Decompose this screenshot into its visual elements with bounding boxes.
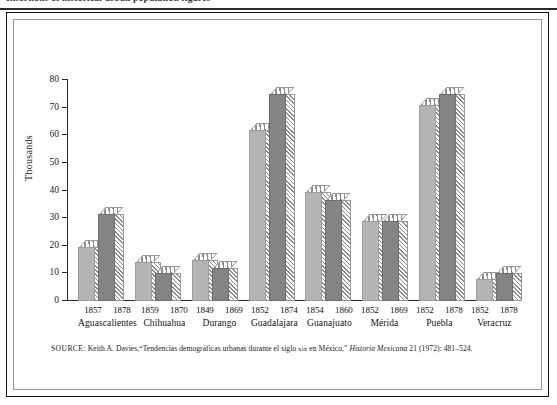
bar-side-face [342,200,351,301]
y-tick-mark [62,190,67,191]
x-tick-year-1852: 1852 [357,305,383,315]
x-tick-year-1878: 1878 [109,305,135,315]
bar-side-face [513,273,522,301]
bar-group-aguascalientes [78,79,115,301]
bar-puebla-1878 [439,94,456,301]
y-tick-label: 80 [50,74,60,84]
group-year-labels: 18521878 [467,305,522,315]
x-tick-city-label: Aguascalientes [78,318,137,328]
bar-slot [382,79,399,301]
bar-group-chihuahua [135,79,172,301]
bar-veracruz-1878 [496,273,513,301]
bar-front-face [439,94,456,301]
bar-group-veracruz [476,79,513,301]
bar-slot [98,79,115,301]
bar-side-face [172,273,181,301]
y-tick-mark [62,272,67,273]
y-tick-label: 0 [54,295,59,305]
x-tick-year-1849: 1849 [192,305,218,315]
group-label-durango: 18491869Durango [192,305,247,328]
bar-slot [78,79,95,301]
x-tick-year-1859: 1859 [137,305,163,315]
bar-side-face [286,94,295,301]
bar-side-face [456,94,465,301]
figure-outer-frame: Thousands 01020304050607080 18571878Agua… [6,12,549,397]
bar-mrida-1852 [362,221,379,301]
group-label-puebla: 18521878Puebla [412,305,467,328]
source-article-open: “Tendencias demográficas urbanas durante… [139,344,298,353]
group-year-labels: 18521874 [247,305,302,315]
x-axis-labels: 18571878Aguascalientes18591870Chihuahua1… [68,305,519,328]
group-label-chihuahua: 18591870Chihuahua [137,305,192,328]
source-note: SOURCE: Keith A. Davies,“Tendencias demo… [51,344,521,354]
bar-front-face [496,273,513,301]
y-tick-mark [62,217,67,218]
x-tick-year-1852: 1852 [247,305,273,315]
bar-slot [135,79,152,301]
bar-aguascalientes-1857 [78,247,95,301]
bar-front-face [305,192,322,301]
bar-slot [192,79,209,301]
x-tick-year-1870: 1870 [166,305,192,315]
top-horizontal-rule [0,8,557,10]
group-year-labels: 18521869 [357,305,412,315]
bar-chihuahua-1870 [155,273,172,301]
x-tick-year-1878: 1878 [496,305,522,315]
bar-slot [496,79,513,301]
x-tick-year-1852: 1852 [412,305,438,315]
bar-guanajuato-1860 [325,200,342,301]
top-caption-text: Insertions of historical urban populatio… [6,0,211,3]
bar-guadalajara-1852 [249,130,266,301]
bar-front-face [249,130,266,301]
source-article-close: en México,” [307,344,349,353]
group-year-labels: 18541860 [302,305,357,315]
group-year-labels: 18591870 [137,305,192,315]
bar-puebla-1852 [419,105,436,301]
bar-slot [439,79,456,301]
y-tick-label: 70 [50,102,60,112]
bar-slot [325,79,342,301]
bar-front-face [362,221,379,301]
bar-side-face [115,214,124,301]
bar-front-face [155,273,172,301]
x-tick-year-1874: 1874 [276,305,302,315]
bar-group-puebla [419,79,456,301]
x-tick-city-label: Chihuahua [137,318,192,328]
bar-front-face [192,260,209,301]
bar-front-face [78,247,95,301]
x-tick-year-1878: 1878 [441,305,467,315]
x-tick-city-label: Mérida [357,318,412,328]
y-tick-mark [62,245,67,246]
bar-side-face [399,221,408,301]
x-tick-city-label: Guanajuato [302,318,357,328]
x-tick-city-label: Durango [192,318,247,328]
bar-chart-plot-area: 01020304050607080 [67,79,519,301]
x-tick-year-1854: 1854 [302,305,328,315]
group-label-veracruz: 18521878Veracruz [467,305,522,328]
group-label-guadalajara: 18521874Guadalajara [247,305,302,328]
y-tick-label: 40 [50,185,60,195]
group-label-mrida: 18521869Mérida [357,305,412,328]
y-tick-mark [62,107,67,108]
y-axis-title: Thousands [23,135,34,181]
y-tick-label: 50 [50,157,60,167]
x-tick-city-label: Guadalajara [247,318,302,328]
bar-slot [476,79,493,301]
bar-group-guadalajara [249,79,286,301]
y-tick-label: 10 [50,267,60,277]
bar-group-mrida [362,79,399,301]
bar-slot [249,79,266,301]
y-tick-label: 30 [50,212,60,222]
bar-veracruz-1852 [476,279,493,301]
bar-slot [155,79,172,301]
y-tick-label: 20 [50,240,60,250]
bar-side-face [229,268,238,301]
group-year-labels: 18521878 [412,305,467,315]
bar-guanajuato-1854 [305,192,322,301]
bar-chihuahua-1859 [135,262,152,301]
x-tick-year-1869: 1869 [386,305,412,315]
source-citation: 21 (1972): 481–524. [407,344,472,353]
bar-slot [305,79,322,301]
bar-aguascalientes-1878 [98,214,115,301]
bar-front-face [269,94,286,301]
